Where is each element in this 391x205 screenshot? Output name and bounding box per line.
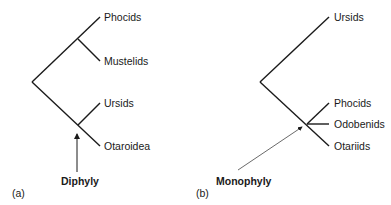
taxon-label: Otariids bbox=[334, 140, 370, 152]
tree-b bbox=[260, 17, 329, 146]
panel-label-a: (a) bbox=[12, 187, 25, 199]
taxon-label: Odobenids bbox=[334, 118, 385, 130]
tree-a bbox=[32, 17, 100, 146]
taxon-label: Phocids bbox=[334, 97, 371, 109]
annotation-monophyly: Monophyly bbox=[216, 175, 271, 187]
taxon-label: Otaroidea bbox=[104, 140, 150, 152]
phylogeny-diagrams bbox=[0, 0, 391, 205]
taxon-label: Mustelids bbox=[104, 55, 148, 67]
panel-label-b: (b) bbox=[196, 187, 209, 199]
taxon-label: Ursids bbox=[334, 11, 364, 23]
annotation-diphyly: Diphyly bbox=[61, 175, 99, 187]
monophyly-arrow bbox=[238, 127, 302, 170]
taxon-label: Phocids bbox=[104, 11, 141, 23]
taxon-label: Ursids bbox=[104, 97, 134, 109]
